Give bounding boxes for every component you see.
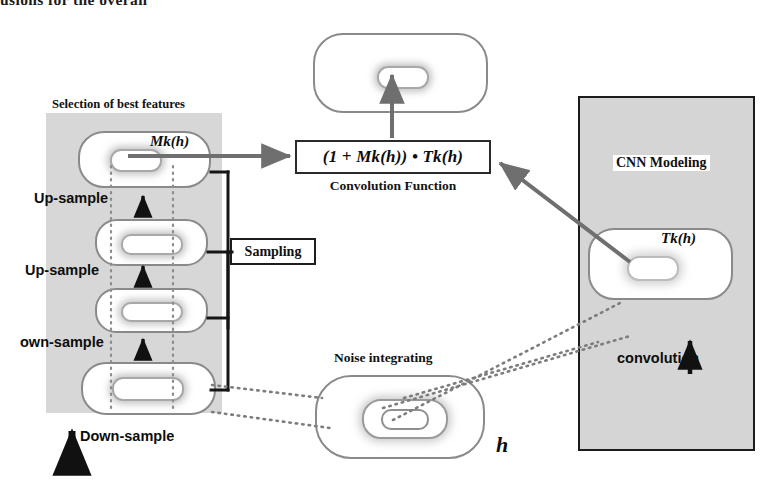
up-sample-top-label: Up-sample bbox=[34, 190, 108, 206]
right-panel-title: CNN Modeling bbox=[613, 155, 710, 171]
convolution-function-caption: Convolution Function bbox=[295, 178, 491, 194]
convolution-formula-box: (1 + Mk(h)) • Tk(h) bbox=[295, 140, 491, 174]
down-capsule bbox=[81, 362, 216, 415]
upsample-1-capsule bbox=[95, 288, 208, 333]
tk-capsule-inner bbox=[627, 256, 679, 281]
output-feature-map-capsule bbox=[313, 33, 488, 113]
h-input-label: h bbox=[496, 432, 508, 458]
diagram-canvas: usions for the overall Selection of best… bbox=[0, 0, 775, 481]
output-feature-map-inner bbox=[377, 66, 429, 89]
upsample-2-capsule-inner bbox=[121, 234, 183, 255]
tk-label: Tk(h) bbox=[661, 230, 696, 247]
down-sample-label: Down-sample bbox=[80, 428, 174, 444]
noise-capsule-inner bbox=[381, 409, 429, 430]
down-capsule-inner bbox=[112, 377, 184, 401]
mk-label: Mk(h) bbox=[150, 133, 189, 150]
own-sample-label: own-sample bbox=[20, 334, 104, 350]
cropped-headline-text: usions for the overall bbox=[0, 0, 268, 9]
down-to-noise-dotted bbox=[212, 385, 330, 428]
noise-integrating-label: Noise integrating bbox=[334, 350, 433, 366]
convolution-label: convolution bbox=[617, 350, 699, 366]
noise-integrating-capsule bbox=[315, 375, 485, 459]
sampling-box: Sampling bbox=[230, 238, 316, 265]
upsample-1-capsule-inner bbox=[121, 302, 183, 322]
mk-capsule bbox=[78, 131, 211, 188]
upsample-2-capsule bbox=[95, 219, 208, 266]
left-panel-title: Selection of best features bbox=[49, 96, 188, 112]
mk-capsule-inner bbox=[110, 149, 162, 172]
up-sample-mid-label: Up-sample bbox=[25, 262, 99, 278]
